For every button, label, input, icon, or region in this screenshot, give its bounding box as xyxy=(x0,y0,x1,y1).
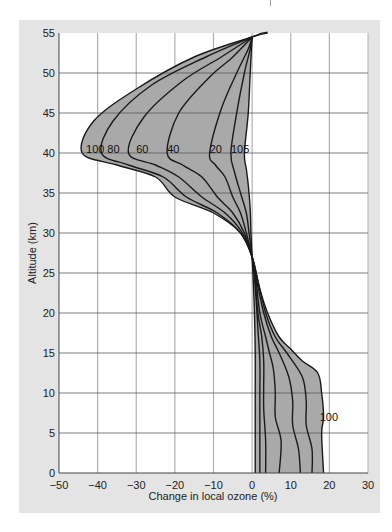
curve-label: 60 xyxy=(136,143,148,155)
y-tick-label: 10 xyxy=(43,387,55,399)
x-tick-label: −50 xyxy=(50,479,69,491)
x-tick-label: 30 xyxy=(362,479,374,491)
y-tick-label: 50 xyxy=(43,67,55,79)
x-tick-label: 10 xyxy=(285,479,297,491)
ozone-change-chart: 10080604020105100 −50−40−30−20−100102030… xyxy=(0,0,392,532)
curve-label: 100 xyxy=(320,411,338,423)
y-tick-label: 40 xyxy=(43,147,55,159)
y-tick-label: 15 xyxy=(43,347,55,359)
y-tick-label: 25 xyxy=(43,267,55,279)
x-tick-label: −40 xyxy=(88,479,107,491)
curve-label: 5 xyxy=(243,143,249,155)
y-tick-label: 55 xyxy=(43,27,55,39)
y-tick-label: 20 xyxy=(43,307,55,319)
y-axis-ticks: 0510152025303540455055 xyxy=(43,27,55,479)
x-tick-label: 20 xyxy=(323,479,335,491)
curve-label: 10 xyxy=(231,143,243,155)
y-tick-label: 0 xyxy=(49,467,55,479)
y-tick-label: 45 xyxy=(43,107,55,119)
y-axis-label: Altitude (km) xyxy=(26,222,38,284)
y-tick-label: 35 xyxy=(43,187,55,199)
curve-label: 20 xyxy=(210,143,222,155)
curve-label: 80 xyxy=(107,143,119,155)
x-axis-label: Change in local ozone (%) xyxy=(148,490,277,502)
curve-label: 40 xyxy=(167,143,179,155)
y-tick-label: 5 xyxy=(49,427,55,439)
curve-label: 100 xyxy=(86,143,104,155)
y-tick-label: 30 xyxy=(43,227,55,239)
x-tick-label: −30 xyxy=(127,479,146,491)
